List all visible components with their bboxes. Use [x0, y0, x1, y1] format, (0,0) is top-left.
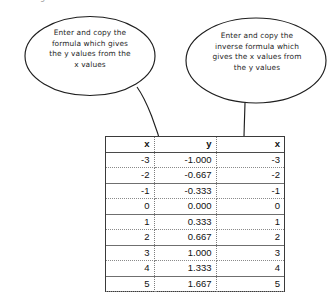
cell-y-value[interactable]: 1.000: [154, 245, 216, 261]
cell-x-input[interactable]: 4: [106, 261, 154, 277]
table-row: 51.6675: [106, 276, 284, 292]
cell-y-value[interactable]: -0.667: [154, 168, 216, 184]
table-row: -3-1.000-3: [106, 152, 284, 168]
cell-y-value[interactable]: -1.000: [154, 152, 216, 168]
cell-x-input[interactable]: -2: [106, 168, 154, 184]
table-row: 10.3331: [106, 214, 284, 230]
cell-y-value[interactable]: 0.000: [154, 199, 216, 215]
clipped-text-artifact: g: [40, 0, 58, 3]
callout-label-left: Enter and copy the formula which gives t…: [33, 28, 147, 70]
table-row: 00.0000: [106, 199, 284, 215]
cell-x-input[interactable]: 3: [106, 245, 154, 261]
cell-x-input[interactable]: 1: [106, 214, 154, 230]
table-row: 20.6672: [106, 230, 284, 246]
cell-y-value[interactable]: 0.667: [154, 230, 216, 246]
cell-x-input[interactable]: 2: [106, 230, 154, 246]
cell-y-value[interactable]: 0.333: [154, 214, 216, 230]
cell-x-output[interactable]: -1: [216, 183, 284, 199]
cell-x-output[interactable]: 2: [216, 230, 284, 246]
cell-x-output[interactable]: 1: [216, 214, 284, 230]
table-row: 31.0003: [106, 245, 284, 261]
cell-x-output[interactable]: -2: [216, 168, 284, 184]
column-header-x-input[interactable]: x: [106, 137, 154, 152]
cell-y-value[interactable]: 1.333: [154, 261, 216, 277]
table-header-row: x y x: [106, 137, 284, 152]
cell-x-output[interactable]: -3: [216, 152, 284, 168]
cell-x-input[interactable]: 5: [106, 276, 154, 292]
cell-x-input[interactable]: -1: [106, 183, 154, 199]
table-row: 41.3334: [106, 261, 284, 277]
cell-x-output[interactable]: 4: [216, 261, 284, 277]
cell-x-input[interactable]: 0: [106, 199, 154, 215]
column-header-y[interactable]: y: [154, 137, 216, 152]
worksheet-canvas: g Enter and copy the formula which gives…: [0, 0, 331, 303]
cell-x-output[interactable]: 3: [216, 245, 284, 261]
cell-y-value[interactable]: 1.667: [154, 276, 216, 292]
column-header-x-output[interactable]: x: [216, 137, 284, 152]
cell-y-value[interactable]: -0.333: [154, 183, 216, 199]
table-row: -2-0.667-2: [106, 168, 284, 184]
cell-x-output[interactable]: 0: [216, 199, 284, 215]
cell-x-output[interactable]: 5: [216, 276, 284, 292]
callout-label-right: Enter and copy the inverse formula which…: [196, 31, 318, 73]
cell-x-input[interactable]: -3: [106, 152, 154, 168]
spreadsheet-table[interactable]: x y x -3-1.000-3-2-0.667-2-1-0.333-100.0…: [105, 136, 285, 292]
table-row: -1-0.333-1: [106, 183, 284, 199]
